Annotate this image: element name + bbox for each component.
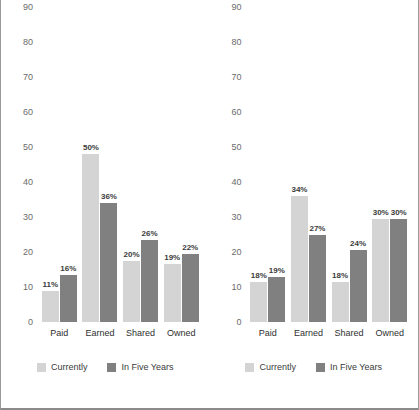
bar-wrap-currently: 19%: [164, 7, 181, 322]
bar-future[interactable]: [100, 203, 117, 322]
bar-currently[interactable]: [291, 196, 308, 322]
chart-page: 90 80 70 60 50 40 30 20 10 0 11%: [0, 0, 419, 410]
legend-item-in-five-years[interactable]: In Five Years: [107, 362, 173, 372]
legend-swatch-icon: [245, 363, 254, 372]
y-tick-right-10: 10: [214, 282, 242, 291]
bar-value-label: 27%: [309, 225, 325, 233]
y-tick-right-60: 60: [214, 107, 242, 116]
bar-wrap-future: 19%: [268, 7, 285, 322]
bar-group-shared-right: 18% 24%: [332, 7, 367, 322]
bar-group-earned-right: 34% 27%: [291, 7, 326, 322]
x-axis-labels-right: Paid Earned Shared Owned: [248, 328, 411, 338]
bar-value-label: 19%: [164, 254, 180, 262]
y-tick-left-20: 20: [5, 247, 33, 256]
y-tick-left-60: 60: [5, 107, 33, 116]
bar-group-owned-right: 30% 30%: [372, 7, 407, 322]
bar-value-label: 18%: [251, 272, 267, 280]
y-tick-left-80: 80: [5, 37, 33, 46]
bar-currently[interactable]: [332, 282, 349, 322]
bar-groups-left: 11% 16% 50% 3: [39, 7, 202, 322]
y-tick-right-40: 40: [214, 177, 242, 186]
legend-label: In Five Years: [121, 362, 173, 372]
y-tick-left-40: 40: [5, 177, 33, 186]
x-label-owned: Owned: [372, 328, 408, 338]
x-label-owned: Owned: [163, 328, 199, 338]
bar-group-paid-left: 11% 16%: [42, 7, 77, 322]
bar-wrap-currently: 30%: [372, 7, 389, 322]
bar-wrap-future: 26%: [141, 7, 158, 322]
bar-group-shared-left: 20% 26%: [123, 7, 158, 322]
x-axis-labels-left: Paid Earned Shared Owned: [39, 328, 202, 338]
y-tick-left-50: 50: [5, 142, 33, 151]
plot-area-right: 90 80 70 60 50 40 30 20 10 0 18%: [248, 7, 411, 322]
legend-swatch-icon: [316, 363, 325, 372]
x-label-shared: Shared: [331, 328, 367, 338]
bar-future[interactable]: [141, 240, 158, 322]
bar-wrap-currently: 20%: [123, 7, 140, 322]
y-tick-right-70: 70: [214, 72, 242, 81]
y-tick-right-80: 80: [214, 37, 242, 46]
bar-wrap-currently: 18%: [332, 7, 349, 322]
bar-group-paid-right: 18% 19%: [250, 7, 285, 322]
bar-value-label: 20%: [124, 251, 140, 259]
bar-value-label: 22%: [182, 244, 198, 252]
bar-wrap-future: 16%: [60, 7, 77, 322]
bar-wrap-future: 27%: [309, 7, 326, 322]
bar-value-label: 34%: [291, 186, 307, 194]
y-tick-left-70: 70: [5, 72, 33, 81]
bar-wrap-currently: 11%: [42, 7, 59, 322]
bar-currently[interactable]: [42, 291, 59, 323]
bar-value-label: 36%: [101, 193, 117, 201]
legend-swatch-icon: [107, 363, 116, 372]
bar-currently[interactable]: [123, 261, 140, 322]
legend-label: Currently: [51, 362, 88, 372]
bar-currently[interactable]: [82, 154, 99, 322]
bar-future[interactable]: [390, 219, 407, 322]
bar-value-label: 30%: [391, 209, 407, 217]
bar-wrap-currently: 50%: [82, 7, 99, 322]
bar-value-label: 16%: [60, 265, 76, 273]
bar-future[interactable]: [350, 250, 367, 322]
y-tick-right-30: 30: [214, 212, 242, 221]
legend-right: Currently In Five Years: [210, 362, 419, 372]
chart-panel-right: 90 80 70 60 50 40 30 20 10 0 18%: [210, 0, 419, 408]
bar-value-label: 24%: [350, 240, 366, 248]
bar-value-label: 19%: [269, 267, 285, 275]
y-tick-right-90: 90: [214, 3, 242, 12]
bar-currently[interactable]: [164, 264, 181, 322]
x-label-earned: Earned: [290, 328, 326, 338]
bar-wrap-future: 24%: [350, 7, 367, 322]
bar-value-label: 18%: [332, 272, 348, 280]
x-label-paid: Paid: [41, 328, 77, 338]
y-tick-right-0: 0: [214, 318, 242, 327]
legend-item-currently[interactable]: Currently: [245, 362, 296, 372]
bar-currently[interactable]: [250, 282, 267, 322]
y-tick-right-20: 20: [214, 247, 242, 256]
bar-wrap-currently: 34%: [291, 7, 308, 322]
x-label-earned: Earned: [82, 328, 118, 338]
bar-future[interactable]: [268, 277, 285, 323]
legend-label: In Five Years: [330, 362, 382, 372]
legend-label: Currently: [259, 362, 296, 372]
chart-panels: 90 80 70 60 50 40 30 20 10 0 11%: [1, 0, 418, 408]
bar-wrap-currently: 18%: [250, 7, 267, 322]
bar-groups-right: 18% 19% 34% 2: [248, 7, 411, 322]
bar-currently[interactable]: [372, 219, 389, 322]
bar-wrap-future: 22%: [182, 7, 199, 322]
legend-item-in-five-years[interactable]: In Five Years: [316, 362, 382, 372]
legend-item-currently[interactable]: Currently: [37, 362, 88, 372]
bar-future[interactable]: [309, 235, 326, 323]
chart-panel-left: 90 80 70 60 50 40 30 20 10 0 11%: [1, 0, 210, 408]
bar-wrap-future: 30%: [390, 7, 407, 322]
bar-future[interactable]: [182, 254, 199, 322]
bar-value-label: 50%: [83, 144, 99, 152]
bar-group-earned-left: 50% 36%: [82, 7, 117, 322]
y-tick-left-0: 0: [5, 318, 33, 327]
y-tick-left-90: 90: [5, 3, 33, 12]
bar-value-label: 26%: [142, 230, 158, 238]
bar-wrap-future: 36%: [100, 7, 117, 322]
x-label-paid: Paid: [250, 328, 286, 338]
legend-left: Currently In Five Years: [1, 362, 210, 372]
bar-future[interactable]: [60, 275, 77, 322]
x-label-shared: Shared: [123, 328, 159, 338]
